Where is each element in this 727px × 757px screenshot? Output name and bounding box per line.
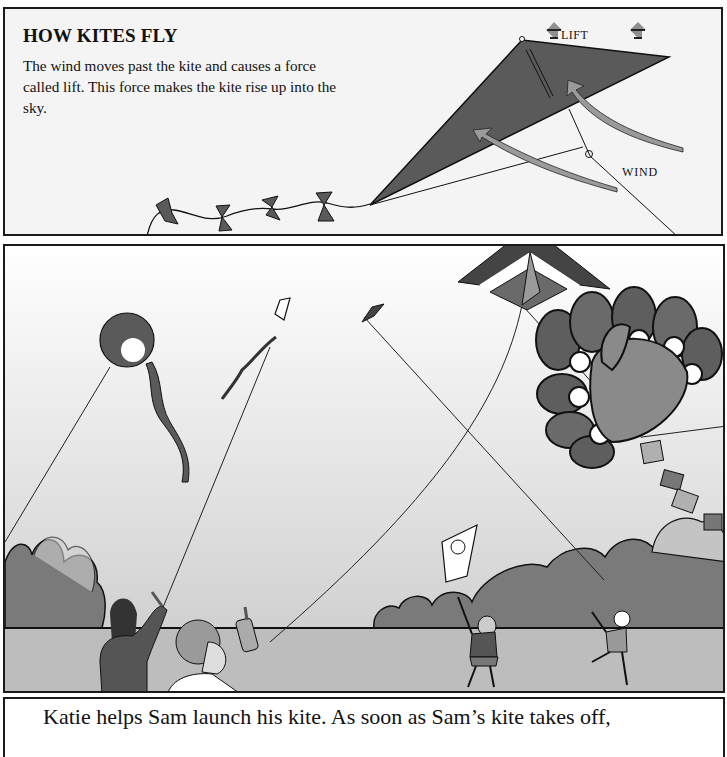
kite-flying-illustration-panel [3, 244, 725, 693]
how-kites-fly-panel: HOW KITES FLY The wind moves past the ki… [3, 7, 723, 236]
small-dark-kite-icon [362, 304, 384, 322]
delta-kite-icon [370, 40, 669, 205]
kite-lift-diagram [5, 9, 723, 236]
caption-panel: Katie helps Sam launch his kite. As soon… [3, 697, 725, 757]
story-caption: Katie helps Sam launch his kite. As soon… [43, 704, 611, 730]
park-scene [5, 246, 725, 693]
kite-tail-icon [640, 440, 722, 530]
round-face-kite-icon [100, 313, 189, 482]
diamond-kite-icon [222, 298, 290, 399]
turkey-kite-icon [536, 287, 722, 468]
cat-face-kite-icon [442, 525, 477, 582]
